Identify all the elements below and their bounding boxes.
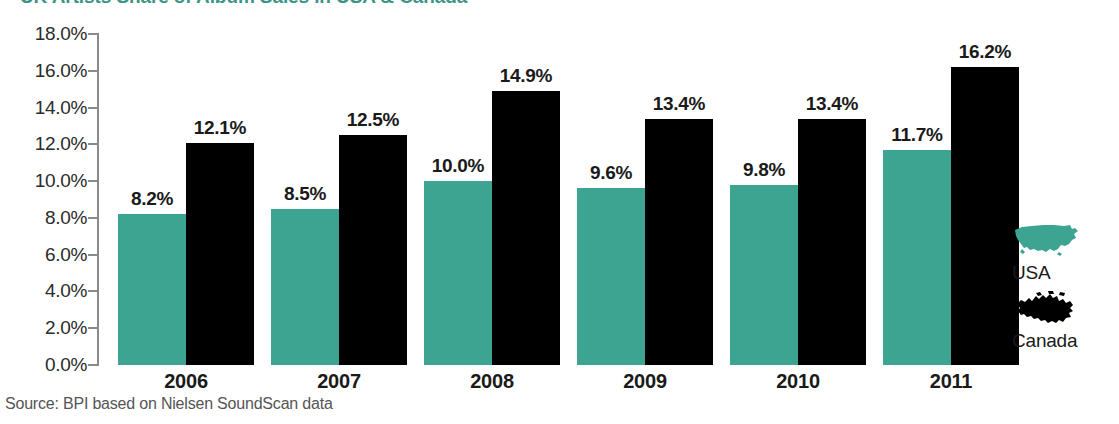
x-axis-label-2006: 2006 [118, 370, 254, 393]
value-label-canada-2010: 13.4% [798, 93, 866, 115]
bar-group: 9.8%13.4% [730, 34, 866, 365]
bar-group: 11.7%16.2% [883, 34, 1019, 365]
value-label-usa-2007: 8.5% [271, 183, 339, 205]
value-label-usa-2006: 8.2% [118, 188, 186, 210]
y-axis-tick-mark [88, 364, 97, 366]
x-axis-label-2009: 2009 [577, 370, 713, 393]
y-axis-tick-label: 8.0% [9, 207, 87, 229]
canada-map-icon [1012, 290, 1118, 330]
bar-canada-2008[interactable] [492, 91, 560, 365]
y-axis-tick-mark [88, 327, 97, 329]
bar-usa-2010[interactable] [730, 185, 798, 365]
bar-canada-2011[interactable] [951, 67, 1019, 365]
y-axis-tick-label: 0.0% [9, 354, 87, 376]
bar-group: 9.6%13.4% [577, 34, 713, 365]
bar-group: 8.5%12.5% [271, 34, 407, 365]
bar-canada-2009[interactable] [645, 119, 713, 365]
bar-usa-2007[interactable] [271, 209, 339, 365]
bar-usa-2008[interactable] [424, 181, 492, 365]
y-axis-tick-mark [88, 70, 97, 72]
x-axis-label-2007: 2007 [271, 370, 407, 393]
bar-usa-2006[interactable] [118, 214, 186, 365]
y-axis-tick-label: 2.0% [9, 317, 87, 339]
value-label-canada-2007: 12.5% [339, 109, 407, 131]
y-axis-tick-label: 6.0% [9, 244, 87, 266]
bar-canada-2007[interactable] [339, 135, 407, 365]
y-axis-tick-mark [88, 33, 97, 35]
bar-canada-2010[interactable] [798, 119, 866, 365]
chart-page: UK Artists Share of Album Sales in USA &… [0, 0, 1119, 424]
value-label-canada-2006: 12.1% [186, 117, 254, 139]
usa-map-icon [1012, 222, 1118, 262]
chart-legend: USA Canada [1012, 222, 1118, 358]
legend-item-canada: Canada [1012, 290, 1118, 352]
value-label-canada-2011: 16.2% [951, 41, 1019, 63]
legend-item-usa: USA [1012, 222, 1118, 284]
value-label-canada-2008: 14.9% [492, 65, 560, 87]
page-title: UK Artists Share of Album Sales in USA &… [20, 0, 467, 8]
legend-label-canada: Canada [1012, 330, 1118, 352]
y-axis-tick-mark [88, 143, 97, 145]
y-axis-tick-label: 16.0% [9, 60, 87, 82]
y-axis-tick-label: 10.0% [9, 170, 87, 192]
value-label-canada-2009: 13.4% [645, 93, 713, 115]
x-axis-label-2010: 2010 [730, 370, 866, 393]
y-axis-tick-mark [88, 254, 97, 256]
source-note: Source: BPI based on Nielsen SoundScan d… [5, 395, 333, 413]
y-axis-tick-label: 12.0% [9, 133, 87, 155]
x-axis-label-2008: 2008 [424, 370, 560, 393]
x-axis-label-2011: 2011 [883, 370, 1019, 393]
plot-area: 8.2%12.1%8.5%12.5%10.0%14.9%9.6%13.4%9.8… [97, 34, 1015, 365]
value-label-usa-2010: 9.8% [730, 159, 798, 181]
y-axis-tick-label: 18.0% [9, 23, 87, 45]
y-axis-tick-mark [88, 217, 97, 219]
bar-usa-2011[interactable] [883, 150, 951, 365]
bar-canada-2006[interactable] [186, 143, 254, 366]
y-axis-tick-mark [88, 107, 97, 109]
value-label-usa-2008: 10.0% [424, 155, 492, 177]
value-label-usa-2011: 11.7% [883, 124, 951, 146]
y-axis-tick-label: 4.0% [9, 280, 87, 302]
y-axis-tick-mark [88, 290, 97, 292]
bar-group: 10.0%14.9% [424, 34, 560, 365]
y-axis-tick-label: 14.0% [9, 97, 87, 119]
bar-group: 8.2%12.1% [118, 34, 254, 365]
y-axis-tick-mark [88, 180, 97, 182]
legend-label-usa: USA [1012, 262, 1118, 284]
bar-usa-2009[interactable] [577, 188, 645, 365]
value-label-usa-2009: 9.6% [577, 162, 645, 184]
